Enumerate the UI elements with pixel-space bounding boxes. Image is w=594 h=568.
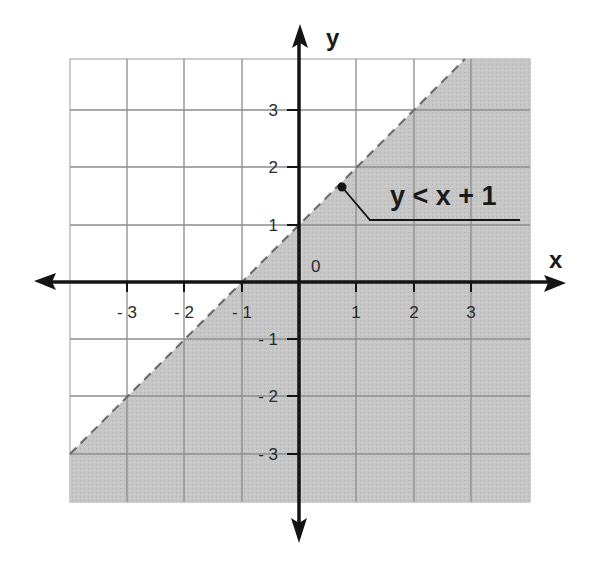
y-tick-label: 2 [269,158,278,177]
y-axis-label: y [326,24,340,51]
x-axis-label: x [549,246,563,273]
inequality-label: y < x + 1 [390,181,497,211]
x-tick-label: 3 [466,303,475,322]
x-tick-label: - 3 [117,303,137,322]
y-tick-label: - 2 [258,387,278,406]
origin-label: 0 [311,257,320,276]
x-tick-label: - 2 [174,303,194,322]
y-tick-label: 1 [269,216,278,235]
x-tick-label: - 1 [232,303,252,322]
inequality-graph: - 3 - 2 - 1 1 2 3 3 2 1 - 1 - 2 - 3 0 y … [0,0,594,568]
y-tick-label: - 1 [258,330,278,349]
y-tick-label: 3 [269,101,278,120]
x-tick-label: 2 [409,303,418,322]
y-tick-label: - 3 [258,445,278,464]
x-tick-label: 1 [351,303,360,322]
